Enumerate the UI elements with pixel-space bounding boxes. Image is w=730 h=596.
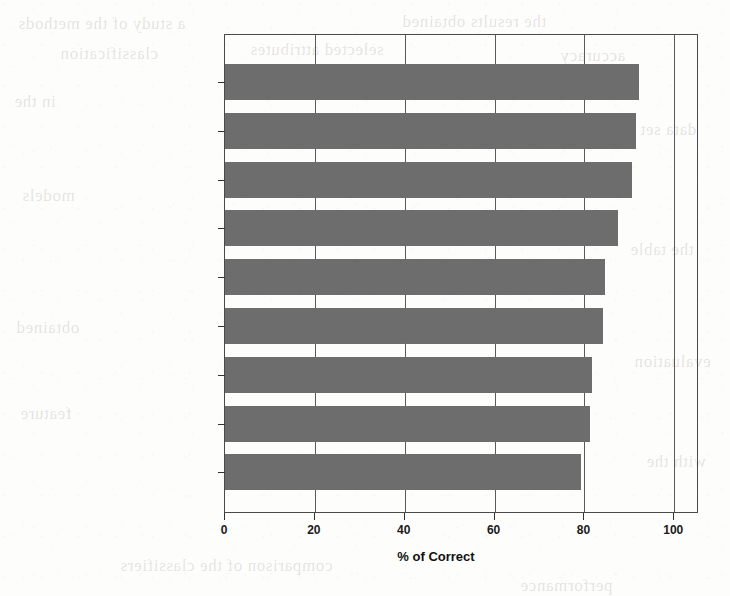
category-tick xyxy=(218,326,225,327)
x-tick-label: 20 xyxy=(307,523,320,537)
x-tick-label: 60 xyxy=(487,523,500,537)
gridline-100 xyxy=(674,35,675,512)
bar-chart: MT-GA-variables-casesMT-GA-variablesJ48M… xyxy=(0,0,730,596)
category-tick xyxy=(218,277,225,278)
x-tick-label: 0 xyxy=(221,523,228,537)
category-tick xyxy=(218,180,225,181)
bar xyxy=(225,454,581,490)
x-tick-label: 40 xyxy=(397,523,410,537)
x-tick xyxy=(224,513,225,520)
x-tick xyxy=(404,513,405,520)
category-tick xyxy=(218,472,225,473)
x-tick-label: 100 xyxy=(663,523,683,537)
bar xyxy=(225,259,605,295)
bar xyxy=(225,357,592,393)
x-tick xyxy=(494,513,495,520)
plot-frame xyxy=(224,34,698,513)
bar xyxy=(225,210,618,246)
category-tick xyxy=(218,424,225,425)
bar xyxy=(225,406,590,442)
x-axis-title: % of Correct xyxy=(397,549,474,564)
x-tick-label: 80 xyxy=(577,523,590,537)
bar xyxy=(225,308,603,344)
bar xyxy=(225,162,632,198)
x-tick xyxy=(583,513,584,520)
x-tick xyxy=(314,513,315,520)
bar xyxy=(225,64,639,100)
bar xyxy=(225,113,636,149)
x-tick xyxy=(673,513,674,520)
category-tick xyxy=(218,131,225,132)
category-tick xyxy=(218,228,225,229)
category-tick xyxy=(218,82,225,83)
category-tick xyxy=(218,375,225,376)
